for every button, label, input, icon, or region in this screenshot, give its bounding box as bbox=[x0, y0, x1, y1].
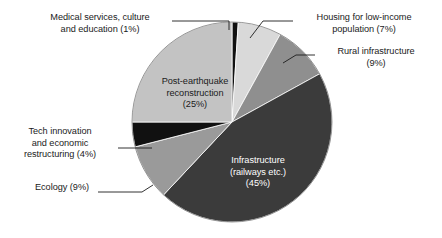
callout-label-ecology: Ecology (9%) bbox=[16, 182, 108, 194]
pie-chart-svg bbox=[0, 0, 442, 238]
pie-slices-group bbox=[132, 22, 332, 222]
callout-label-tech-innovation: Tech innovation and economic restructuri… bbox=[4, 126, 116, 161]
callout-label-medical: Medical services, culture and education … bbox=[24, 12, 176, 35]
callout-label-rural-infrastructure: Rural infrastructure (9%) bbox=[318, 46, 434, 69]
pie-chart-figure: Medical services, culture and education … bbox=[0, 0, 442, 238]
slice-label-post-earthquake: Post-earthquake reconstruction (25%) bbox=[146, 76, 244, 111]
slice-label-infrastructure: Infrastructure (railways etc.) (45%) bbox=[206, 155, 310, 190]
callout-label-housing: Housing for low-income population (7%) bbox=[296, 12, 432, 35]
